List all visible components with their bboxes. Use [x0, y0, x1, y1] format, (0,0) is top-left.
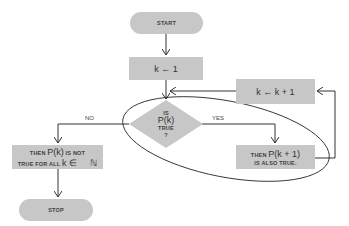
decision-line-3: TRUE — [158, 125, 174, 132]
increment-label: k ← k + 1 — [256, 87, 294, 97]
decision-line-4: ? — [164, 132, 168, 138]
init-label: k ← 1 — [154, 64, 178, 74]
no-result-prefix: THEN — [30, 150, 48, 156]
yes-result-line-2: IS ALSO TRUE. — [254, 159, 296, 167]
yes-result-expr: P(k + 1) — [268, 149, 300, 159]
increment-process-box: k ← k + 1 — [236, 79, 315, 104]
yes-result-prefix: THEN — [251, 152, 269, 158]
yes-result-line-1: THEN P(k + 1) — [251, 148, 300, 159]
arrow-loop-back — [315, 91, 335, 158]
start-label: START — [157, 20, 176, 26]
arrow-yes — [202, 124, 275, 143]
no-result-line2-text: TRUE FOR ALL — [18, 161, 62, 167]
decision-line-2: P(k) — [158, 116, 175, 125]
naturals-symbol: ℕ — [90, 158, 97, 168]
stop-terminal: STOP — [19, 199, 93, 221]
decision-text: IS P(k) TRUE ? — [129, 101, 203, 147]
arrow-no — [58, 124, 129, 143]
no-result-expr: P(k) — [47, 147, 64, 157]
no-result-line-2: TRUE FOR ALL k ∈ ℕ — [18, 157, 98, 168]
yes-result-box: THEN P(k + 1) IS ALSO TRUE. — [236, 145, 315, 169]
no-result-box: THEN P(k) IS NOT TRUE FOR ALL k ∈ ℕ — [12, 145, 103, 169]
start-terminal: START — [130, 12, 203, 34]
no-result-k-in: k ∈ — [62, 158, 77, 168]
edge-label-yes: YES — [212, 115, 224, 121]
stop-label: STOP — [48, 207, 64, 213]
edge-label-no: NO — [85, 115, 94, 121]
init-process-box: k ← 1 — [129, 57, 203, 80]
